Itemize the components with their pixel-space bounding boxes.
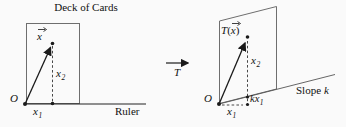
vector-overarrow-icon [38, 27, 47, 32]
x1-dot-left [51, 102, 55, 106]
kx1-label: kx1 [250, 94, 264, 105]
Tx-label: T(x) [221, 25, 239, 36]
vector-overarrow-icon [232, 21, 241, 26]
deck-title: Deck of Cards [46, 2, 126, 13]
ruler-label: Ruler [115, 106, 139, 117]
x1-dot-right [246, 103, 249, 106]
x1-label-left: x1 [33, 106, 42, 117]
transform-label: T [174, 67, 180, 78]
deck-rectangle [27, 24, 80, 104]
sheared-deck-parallelogram [220, 7, 277, 104]
shear-transformation-figure: Deck of Cards O x x1 x2 Ruler T T(x) O x… [0, 0, 346, 127]
origin-label-left: O [10, 93, 18, 104]
vector-Tx-arrow [220, 43, 246, 103]
origin-dot-left [23, 102, 27, 106]
vector-tip-dot-right [246, 35, 250, 39]
origin-dot-right [217, 102, 221, 106]
x2-label-right: x2 [251, 55, 260, 66]
vector-x-label: x [37, 31, 42, 42]
slope-intersection-dot [246, 95, 249, 98]
x1-label-right: x1 [227, 106, 236, 117]
slope-label: Slopek [296, 85, 329, 96]
figure-geometry [0, 0, 346, 127]
vector-tip-dot-left [51, 42, 55, 46]
x2-label-left: x2 [56, 68, 65, 79]
vector-x-arrow [26, 48, 51, 104]
origin-label-right: O [204, 93, 212, 104]
